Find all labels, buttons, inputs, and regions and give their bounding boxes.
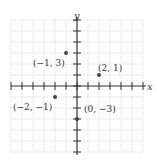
- y-axis-label: y: [73, 10, 80, 21]
- point-neg2-neg1: [53, 95, 57, 99]
- x-axis-label: x: [147, 81, 153, 92]
- coordinate-plane: x y (−1, 3) (2, 1) (−2, −1) (0, −3): [0, 0, 157, 161]
- point-0-neg3: [75, 117, 79, 121]
- point-label-neg1-3: (−1, 3): [33, 58, 65, 68]
- point-neg1-3: [64, 51, 68, 55]
- axes: [11, 17, 146, 155]
- point-label-neg2-neg1: (−2, −1): [13, 102, 52, 112]
- point-2-1: [97, 73, 101, 77]
- point-label-2-1: (2, 1): [98, 63, 122, 73]
- point-label-0-neg3: (0, −3): [84, 104, 116, 114]
